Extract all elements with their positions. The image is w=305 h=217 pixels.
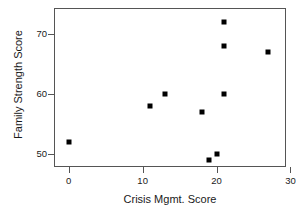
x-axis-title: Crisis Mgmt. Score bbox=[54, 193, 286, 206]
data-point bbox=[214, 151, 219, 156]
x-axis-tick bbox=[143, 167, 144, 173]
data-point bbox=[66, 139, 71, 144]
y-axis-tick-label: 70 bbox=[36, 29, 47, 39]
data-point bbox=[207, 157, 212, 162]
y-axis-tick-label: 60 bbox=[36, 89, 47, 99]
y-axis-tick bbox=[48, 94, 54, 95]
data-point bbox=[221, 43, 226, 48]
y-axis-tick bbox=[48, 154, 54, 155]
y-axis-title: Family Strength Score bbox=[12, 5, 25, 165]
x-axis-tick bbox=[217, 167, 218, 173]
x-axis-tick-label: 0 bbox=[54, 176, 84, 186]
data-point bbox=[221, 91, 226, 96]
data-point bbox=[221, 19, 226, 24]
x-axis-tick bbox=[290, 167, 291, 173]
data-point bbox=[266, 49, 271, 54]
y-axis-tick bbox=[48, 34, 54, 35]
scatter-plot-figure: 506070 0102030 Crisis Mgmt. Score Family… bbox=[0, 0, 305, 217]
x-axis-tick bbox=[69, 167, 70, 173]
data-points-layer bbox=[54, 8, 286, 167]
data-point bbox=[199, 109, 204, 114]
y-axis-tick-label: 50 bbox=[36, 149, 47, 159]
x-axis-tick-label: 30 bbox=[275, 176, 305, 186]
x-axis-tick-label: 10 bbox=[128, 176, 158, 186]
data-point bbox=[162, 91, 167, 96]
data-point bbox=[148, 103, 153, 108]
x-axis-tick-label: 20 bbox=[202, 176, 232, 186]
